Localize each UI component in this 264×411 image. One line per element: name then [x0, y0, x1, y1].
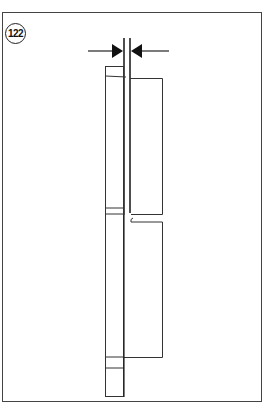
gap-lines	[124, 38, 130, 215]
left-column-outline	[106, 67, 124, 397]
left-arrowhead-icon	[112, 44, 123, 58]
dimension-arrows	[88, 44, 169, 58]
lower-right-panel	[124, 218, 163, 358]
left-column	[106, 67, 127, 397]
right-arrowhead-icon	[131, 44, 142, 58]
left-column-top-line	[106, 76, 127, 77]
gap-diagram	[0, 0, 264, 411]
upper-right-panel	[130, 79, 163, 215]
